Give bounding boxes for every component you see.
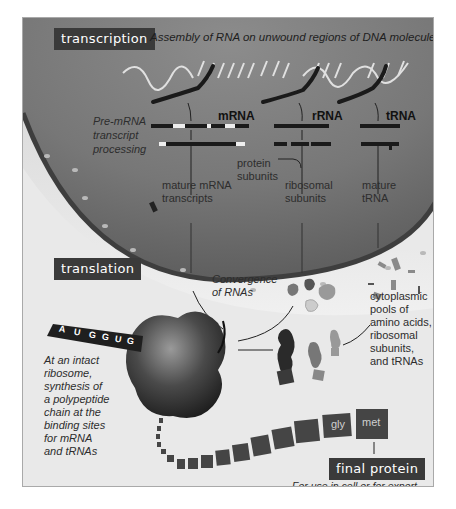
processing-label-line2: transcript <box>93 129 138 142</box>
note-line2: ribosome, <box>44 367 92 380</box>
note-line4: a polypeptide <box>44 393 109 406</box>
protein-subunits-line1: protein <box>237 157 271 170</box>
mature-trna-line2: tRNA <box>362 192 388 205</box>
ribosomal-subunits-line1: ribosomal <box>285 179 333 192</box>
pools-line6: and tRNAs <box>370 355 423 368</box>
nucleus <box>23 18 434 280</box>
note-line5: chain at the <box>44 406 101 419</box>
ribosome <box>126 312 226 418</box>
translation-tag: translation <box>54 258 141 280</box>
note-line6: binding sites <box>44 419 105 432</box>
protein-subunits-line2: subunits <box>237 170 278 183</box>
rrna-label: rRNA <box>312 109 343 123</box>
note-line3: synthesis of <box>44 380 102 393</box>
mature-mrna-line2: transcripts <box>162 192 213 205</box>
pools-line4: ribosomal <box>370 329 418 342</box>
trna-molecules <box>277 329 341 385</box>
trna-label: tRNA <box>386 109 416 123</box>
processing-label-line3: processing <box>93 143 146 156</box>
pools-line3: amino acids, <box>370 316 432 329</box>
note-line7: for mRNA <box>44 432 92 445</box>
diagram-frame: transcription Assembly of RNA on unwound… <box>22 17 434 487</box>
convergence-line2: of RNAs <box>212 286 253 299</box>
pools-line2: pools of <box>370 303 409 316</box>
transcription-caption: Assembly of RNA on unwound regions of DN… <box>150 31 434 43</box>
final-protein-tag: final protein <box>329 458 425 480</box>
pools-line5: subunits, <box>370 342 414 355</box>
convergence-line1: Convergence <box>212 273 277 286</box>
mature-trna-line1: mature <box>362 179 396 192</box>
processing-label-line1: Pre-mRNA <box>93 115 146 128</box>
transcription-tag: transcription <box>54 28 155 50</box>
mature-mrna-line1: mature mRNA <box>162 179 232 192</box>
residue-gly: gly <box>331 418 345 430</box>
codon-1: A <box>58 324 66 335</box>
mrna-label: mRNA <box>218 109 255 123</box>
final-protein-caption: For use in cell or for export <box>292 480 417 487</box>
ribosomal-subunits-line2: subunits <box>285 192 326 205</box>
pools-line1: cytoplasmic <box>370 290 427 303</box>
note-line8: and tRNAs <box>44 445 97 458</box>
residue-met: met <box>362 416 380 428</box>
note-line1: At an intact <box>44 354 99 367</box>
